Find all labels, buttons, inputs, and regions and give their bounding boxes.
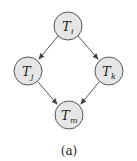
node-tm: T m [55, 101, 83, 129]
svg-text:i: i [71, 27, 74, 36]
node-tk: T k [95, 57, 123, 85]
edge-tj-tm [38, 82, 57, 104]
svg-text:m: m [70, 116, 78, 125]
edge-tk-tm [81, 82, 99, 104]
edge-ti-tk [78, 36, 98, 59]
dependency-diagram: T i T j T k T m (a) [0, 0, 137, 161]
figure-caption: (a) [61, 144, 78, 158]
svg-text:k: k [111, 72, 116, 81]
node-ti: T i [54, 12, 82, 40]
node-tj: T j [14, 57, 42, 85]
edge-ti-tj [39, 36, 58, 59]
